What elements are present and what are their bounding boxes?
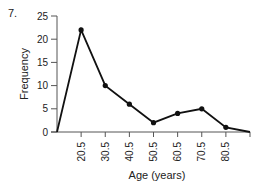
y-tick-label: 10 [37, 80, 49, 91]
x-tick-label: 40.5 [124, 142, 135, 162]
data-point-marker [103, 83, 108, 88]
data-point-marker [199, 106, 204, 111]
y-axis-title: Frequency [18, 48, 30, 100]
data-point-marker [223, 125, 228, 130]
data-point-marker [175, 111, 180, 116]
y-tick-label: 0 [42, 127, 48, 138]
frequency-line [57, 30, 250, 132]
x-tick-label: 50.5 [148, 142, 159, 162]
y-axis: 0510152025 [37, 11, 57, 138]
x-axis-title: Age (years) [129, 169, 186, 181]
y-tick-label: 20 [37, 34, 49, 45]
y-tick-label: 5 [42, 103, 48, 114]
x-axis: 20.530.540.550.560.570.580.5 [51, 132, 250, 161]
x-tick-label: 30.5 [100, 142, 111, 162]
x-tick-label: 70.5 [196, 142, 207, 162]
y-tick-label: 25 [37, 11, 49, 22]
data-point-marker [79, 27, 84, 32]
data-point-marker [127, 102, 132, 107]
x-tick-label: 80.5 [220, 142, 231, 162]
data-point-marker [151, 120, 156, 125]
x-tick-label: 20.5 [76, 142, 87, 162]
frequency-polygon-chart: 0510152025 20.530.540.550.560.570.580.5 … [0, 0, 262, 192]
x-tick-label: 60.5 [172, 142, 183, 162]
y-tick-label: 15 [37, 57, 49, 68]
data-series [57, 27, 250, 132]
